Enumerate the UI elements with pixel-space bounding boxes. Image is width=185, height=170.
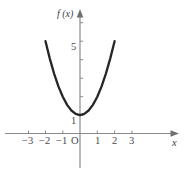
xtick-label-3: 3 xyxy=(129,136,134,147)
xtick-label-1: 1 xyxy=(95,136,100,147)
ytick-label-5: 5 xyxy=(71,42,76,53)
xtick-label-2: 2 xyxy=(112,136,117,147)
xtick-label-neg3: −3 xyxy=(22,136,33,147)
x-axis-arrowhead xyxy=(171,130,180,137)
y-axis-label: f (x) xyxy=(57,9,73,19)
ytick-label-1: 1 xyxy=(71,116,76,127)
xtick-label-neg2: −2 xyxy=(39,136,50,147)
parabola-figure: f (x) x O −3 −2 −1 1 2 3 1 5 xyxy=(0,0,185,170)
xtick-label-neg1: −1 xyxy=(56,136,67,147)
y-axis-arrowhead xyxy=(77,9,84,18)
origin-label: O xyxy=(71,136,79,147)
x-axis-label: x xyxy=(172,138,177,149)
